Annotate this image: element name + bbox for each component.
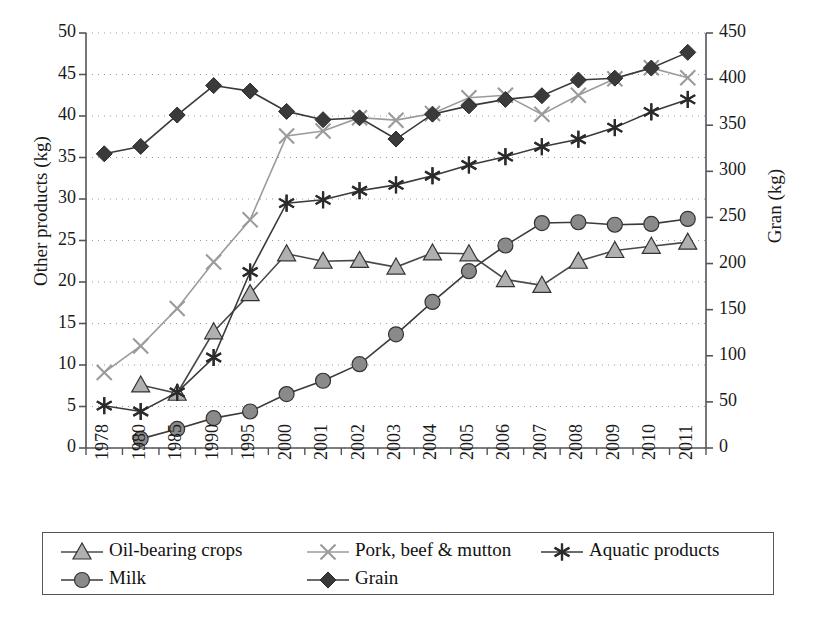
asterisk-marker-icon: [539, 541, 585, 559]
data-point-circle: [607, 217, 622, 232]
legend-label: Aquatic products: [585, 539, 719, 561]
data-point-x: [680, 70, 695, 85]
y-tick-label-left: 20: [30, 270, 76, 291]
data-point-triangle: [278, 245, 296, 261]
data-point-circle: [316, 373, 331, 388]
data-point-triangle: [73, 543, 91, 559]
data-point-triangle: [351, 251, 369, 267]
legend-item-aquatic-products[interactable]: Aquatic products: [539, 539, 719, 561]
x-tick-label: 1995: [238, 424, 259, 460]
data-point-asterisk: [133, 403, 148, 420]
data-point-circle: [243, 404, 258, 419]
legend-label: Pork, beef & mutton: [351, 539, 511, 561]
x-tick-label: 1980: [129, 424, 150, 460]
legend-item-grain[interactable]: Grain: [305, 567, 398, 589]
x-tick-label: 2006: [493, 424, 514, 460]
data-point-diamond: [206, 78, 222, 94]
x-tick-label: 1985: [165, 424, 186, 460]
data-point-asterisk: [352, 182, 367, 199]
data-point-triangle: [496, 271, 514, 287]
y-tick-label-left: 0: [30, 436, 76, 457]
data-point-x: [243, 212, 258, 227]
data-point-circle: [352, 357, 367, 372]
circle-marker-icon: [59, 569, 105, 587]
y-tick-label-right: 300: [719, 159, 746, 180]
data-point-diamond: [320, 572, 336, 588]
data-point-circle: [680, 211, 695, 226]
data-point-asterisk: [535, 138, 550, 155]
x-tick-label: 2001: [311, 424, 332, 460]
data-point-asterisk: [243, 264, 258, 281]
x-tick-label: 1990: [202, 424, 223, 460]
data-point-asterisk: [571, 131, 586, 148]
data-point-circle: [644, 216, 659, 231]
data-point-diamond: [680, 44, 696, 60]
y-tick-label-right: 0: [719, 436, 728, 457]
x-tick-label: 1978: [92, 424, 113, 460]
data-point-diamond: [497, 91, 513, 107]
data-point-asterisk: [607, 119, 622, 136]
data-point-triangle: [132, 376, 150, 392]
data-point-asterisk: [498, 148, 513, 165]
series-grain: [96, 44, 696, 161]
y-tick-label-right: 400: [719, 67, 746, 88]
data-point-x: [571, 88, 586, 103]
data-point-asterisk: [425, 167, 440, 184]
data-point-circle: [571, 215, 586, 230]
x-tick-label: 2008: [566, 424, 587, 460]
diamond-marker-icon: [305, 569, 351, 587]
y-tick-label-left: 25: [30, 229, 76, 250]
x-tick-label: 2000: [275, 424, 296, 460]
data-point-x: [133, 338, 148, 353]
data-point-diamond: [388, 131, 404, 147]
data-point-circle: [498, 238, 513, 253]
data-point-asterisk: [389, 176, 404, 193]
chart-legend: Oil-bearing cropsPork, beef & muttonAqua…: [42, 532, 774, 595]
x-tick-label: 2005: [457, 424, 478, 460]
x-tick-label: 2003: [384, 424, 405, 460]
y-tick-label-right: 100: [719, 344, 746, 365]
data-point-triangle: [460, 245, 478, 261]
data-point-triangle: [679, 233, 697, 249]
y-tick-label-left: 5: [30, 395, 76, 416]
data-point-x: [97, 365, 112, 380]
legend-item-pork-beef-mutton[interactable]: Pork, beef & mutton: [305, 539, 511, 561]
x-tick-label: 2002: [348, 424, 369, 460]
y-tick-label-right: 200: [719, 252, 746, 273]
data-point-circle: [279, 387, 294, 402]
y-tick-label-right: 350: [719, 113, 746, 134]
data-point-diamond: [534, 88, 550, 104]
x-tick-label: 2004: [420, 424, 441, 460]
chart-figure: Other products (kg) Gran (kg) 0510152025…: [0, 0, 818, 635]
data-point-asterisk: [644, 103, 659, 120]
data-point-triangle: [423, 244, 441, 260]
legend-label: Milk: [105, 567, 146, 589]
y-tick-label-left: 35: [30, 146, 76, 167]
data-point-circle: [461, 264, 476, 279]
data-point-diamond: [279, 103, 295, 119]
triangle-marker-icon: [59, 541, 105, 559]
y-tick-label-left: 10: [30, 353, 76, 374]
y-tick-label-right: 50: [719, 390, 737, 411]
x-tick-label: 2011: [676, 425, 697, 460]
x-tick-label: 2009: [603, 424, 624, 460]
legend-label: Grain: [351, 567, 398, 589]
data-point-circle: [534, 216, 549, 231]
data-point-diamond: [96, 146, 112, 162]
data-point-circle: [389, 327, 404, 342]
data-point-asterisk: [680, 91, 695, 108]
data-point-asterisk: [97, 397, 112, 414]
legend-item-oil-bearing-crops[interactable]: Oil-bearing crops: [59, 539, 242, 561]
data-point-x: [534, 107, 549, 122]
y-tick-label-left: 15: [30, 312, 76, 333]
data-point-diamond: [242, 83, 258, 99]
data-point-x: [170, 301, 185, 316]
y-tick-label-right: 450: [719, 21, 746, 42]
y-tick-label-left: 50: [30, 21, 76, 42]
legend-label: Oil-bearing crops: [105, 539, 242, 561]
legend-item-milk[interactable]: Milk: [59, 567, 146, 589]
y-tick-label-left: 45: [30, 63, 76, 84]
data-point-circle: [75, 573, 90, 588]
x-marker-icon: [305, 541, 351, 559]
data-point-triangle: [569, 252, 587, 268]
